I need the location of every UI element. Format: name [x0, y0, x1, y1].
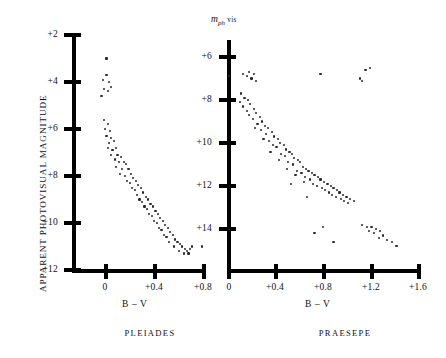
- data-point: [142, 191, 144, 193]
- data-point: [287, 161, 289, 163]
- data-point: [132, 177, 134, 179]
- data-point: [302, 166, 304, 168]
- data-point: [178, 250, 180, 252]
- data-point: [124, 175, 126, 177]
- data-point: [116, 154, 118, 156]
- data-point: [382, 234, 384, 236]
- data-point: [151, 215, 153, 217]
- data-point: [110, 137, 112, 139]
- data-point: [110, 154, 112, 156]
- data-point: [361, 80, 363, 82]
- data-point: [189, 248, 191, 250]
- data-point: [285, 148, 287, 150]
- data-point: [141, 201, 143, 203]
- data-point: [119, 173, 121, 175]
- data-point: [252, 118, 254, 120]
- data-point: [269, 151, 271, 153]
- data-point: [246, 75, 248, 77]
- data-point: [164, 224, 166, 226]
- data-point: [294, 174, 296, 176]
- data-point: [143, 205, 145, 207]
- data-point: [370, 226, 372, 228]
- data-point: [157, 213, 159, 215]
- data-point: [183, 252, 185, 254]
- data-point: [156, 222, 158, 224]
- data-point: [264, 125, 266, 127]
- data-point: [284, 155, 286, 157]
- data-point: [107, 123, 109, 125]
- data-point: [319, 178, 321, 180]
- data-point: [113, 140, 115, 142]
- data-point: [343, 200, 345, 202]
- data-point: [134, 189, 136, 191]
- data-point: [153, 220, 155, 222]
- data-point: [323, 181, 325, 183]
- data-point: [332, 241, 334, 243]
- data-point: [254, 127, 256, 129]
- data-point: [108, 81, 110, 83]
- data-point: [137, 184, 139, 186]
- data-point: [275, 146, 277, 148]
- data-point: [307, 170, 309, 172]
- data-point: [131, 187, 133, 189]
- data-point: [138, 198, 140, 200]
- data-point: [304, 176, 306, 178]
- data-point: [313, 174, 315, 176]
- data-point: [105, 74, 107, 76]
- data-point: [103, 119, 105, 121]
- data-point: [256, 123, 258, 125]
- data-point: [107, 147, 109, 149]
- data-point: [306, 196, 308, 198]
- data-point: [340, 198, 342, 200]
- data-point: [242, 105, 244, 107]
- data-point: [268, 140, 270, 142]
- data-point: [375, 228, 377, 230]
- data-point: [328, 191, 330, 193]
- data-point: [168, 241, 170, 243]
- data-point: [368, 230, 370, 232]
- data-point: [353, 200, 355, 202]
- data-point: [246, 110, 248, 112]
- data-point: [121, 168, 123, 170]
- data-point: [395, 245, 397, 247]
- data-point: [300, 172, 302, 174]
- data-point: [331, 194, 333, 196]
- data-point: [172, 234, 174, 236]
- data-point: [242, 73, 244, 75]
- data-point: [160, 229, 162, 231]
- data-point: [103, 88, 105, 90]
- data-point: [118, 161, 120, 163]
- data-point: [265, 133, 267, 135]
- data-point: [291, 153, 293, 155]
- data-point: [309, 178, 311, 180]
- scatter-plot-pleiades: [0, 0, 223, 310]
- data-point: [125, 163, 127, 165]
- data-point: [324, 189, 326, 191]
- data-point: [140, 187, 142, 189]
- data-point: [108, 142, 110, 144]
- data-point: [169, 231, 171, 233]
- caption-praesepe: PRAESEPE: [275, 328, 415, 338]
- data-point: [303, 181, 305, 183]
- data-point: [332, 187, 334, 189]
- data-point: [136, 194, 138, 196]
- panel-praesepe: mph vis +6 +8 +10 +12 +14 0 +0.4 +0.8 +1…: [200, 0, 446, 358]
- data-point: [148, 213, 150, 215]
- data-point: [369, 67, 371, 69]
- data-point: [313, 232, 315, 234]
- data-point: [107, 90, 109, 92]
- data-point: [127, 168, 129, 170]
- data-point: [260, 129, 262, 131]
- data-point: [100, 95, 102, 97]
- data-point: [321, 187, 323, 189]
- data-point: [312, 183, 314, 185]
- data-point: [278, 159, 280, 161]
- data-point: [316, 185, 318, 187]
- data-point: [277, 138, 279, 140]
- data-point: [364, 69, 366, 71]
- data-point: [130, 173, 132, 175]
- data-point: [335, 196, 337, 198]
- data-point: [239, 101, 241, 103]
- data-point: [259, 116, 261, 118]
- data-point: [147, 198, 149, 200]
